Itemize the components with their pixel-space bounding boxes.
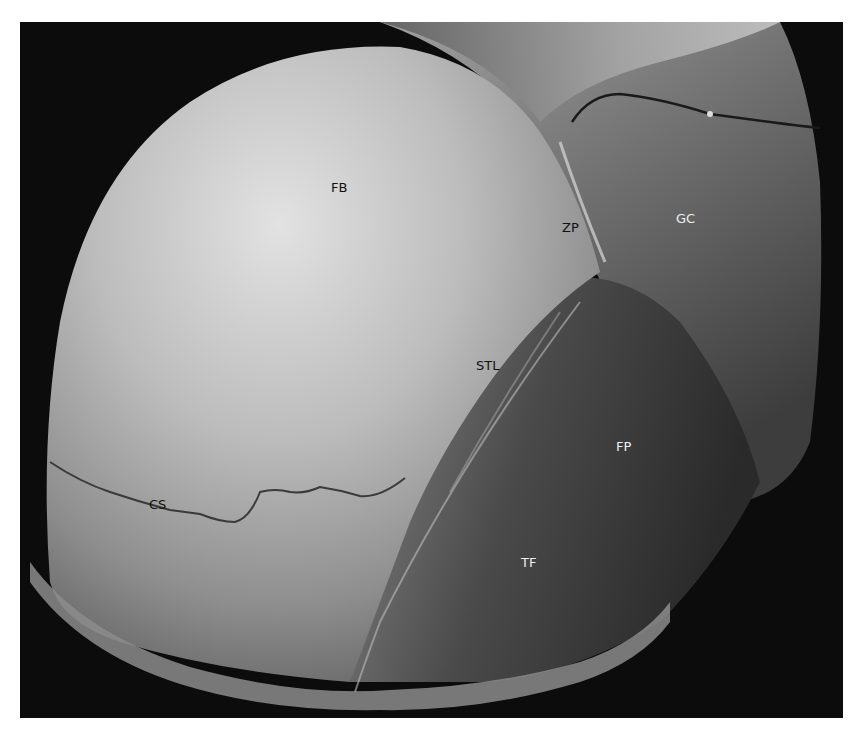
label-fb: FB [331, 181, 347, 194]
label-cs: CS [149, 498, 166, 511]
label-zp: ZP [562, 221, 579, 234]
skull-illustration [20, 22, 843, 718]
label-tf: TF [521, 556, 536, 569]
label-fp: FP [616, 440, 631, 453]
label-gc: GC [676, 212, 695, 225]
label-stl: STL [476, 359, 499, 372]
anatomical-photograph: FB ZP GC STL FP CS TF [20, 22, 843, 718]
